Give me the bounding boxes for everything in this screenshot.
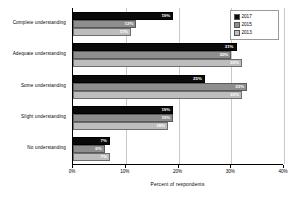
- bar: 11%: [73, 28, 131, 36]
- bar-value-label: 32%: [230, 92, 239, 96]
- bar: 7%: [73, 137, 110, 145]
- bar-value-label: 7%: [101, 155, 107, 159]
- bar: 32%: [73, 59, 242, 67]
- chart-legend: 201720152013: [230, 10, 279, 40]
- legend-swatch-icon: [234, 22, 240, 28]
- bar: 33%: [73, 83, 247, 91]
- bar-value-label: 19%: [161, 108, 170, 112]
- bar-value-label: 30%: [219, 53, 228, 57]
- x-axis-tick: [178, 165, 179, 168]
- legend-swatch-icon: [234, 14, 240, 20]
- bar-value-label: 18%: [156, 124, 165, 128]
- bar: 19%: [73, 114, 173, 122]
- bar-value-label: 19%: [161, 116, 170, 120]
- bar: 19%: [73, 12, 173, 20]
- legend-item: 2017: [234, 13, 276, 21]
- bar: 12%: [73, 20, 136, 28]
- x-axis-tick: [283, 165, 284, 168]
- bar-value-label: 33%: [235, 84, 244, 88]
- bar: 31%: [73, 43, 237, 51]
- category-label: Some understanding: [0, 84, 66, 89]
- x-axis-tick-label: 10%: [120, 169, 129, 174]
- category-label: Adequate understanding: [0, 52, 66, 57]
- category-label: Slight understanding: [0, 115, 66, 120]
- x-axis-title: Percent of respondents: [72, 182, 283, 187]
- category-label: Complete understanding: [0, 21, 66, 26]
- bar-value-label: 11%: [119, 29, 128, 33]
- bar: 7%: [73, 153, 110, 161]
- bar-chart: Complete understandingAdequate understan…: [0, 0, 299, 202]
- bar: 25%: [73, 75, 205, 83]
- bar-value-label: 12%: [125, 21, 134, 25]
- category-axis-labels: Complete understandingAdequate understan…: [0, 8, 69, 165]
- bar-value-label: 32%: [230, 61, 239, 65]
- legend-item: 2013: [234, 29, 276, 37]
- legend-item: 2015: [234, 21, 276, 29]
- bar: 19%: [73, 106, 173, 114]
- x-axis-tick-label: 40%: [278, 169, 287, 174]
- x-axis-tick-label: 0%: [69, 169, 76, 174]
- bar-value-label: 6%: [95, 147, 101, 151]
- x-axis-tick-label: 20%: [173, 169, 182, 174]
- x-axis-tick: [125, 165, 126, 168]
- bar-group: 19%19%18%: [73, 106, 283, 130]
- bar-value-label: 19%: [161, 13, 170, 17]
- legend-swatch-icon: [234, 30, 240, 36]
- legend-label: 2015: [242, 23, 252, 28]
- bar-value-label: 25%: [193, 76, 202, 80]
- bar-group: 31%30%32%: [73, 43, 283, 67]
- gridline: [284, 8, 285, 164]
- bar: 32%: [73, 91, 242, 99]
- legend-label: 2013: [242, 31, 252, 36]
- category-label: No understanding: [0, 146, 66, 151]
- x-axis-tick-label: 30%: [226, 169, 235, 174]
- bar-value-label: 31%: [225, 45, 234, 49]
- bar-group: 25%33%32%: [73, 75, 283, 99]
- bar-group: 7%6%7%: [73, 137, 283, 161]
- legend-label: 2017: [242, 15, 252, 20]
- x-axis-tick: [72, 165, 73, 168]
- bar: 6%: [73, 145, 105, 153]
- x-axis-tick: [230, 165, 231, 168]
- bar-value-label: 7%: [101, 139, 107, 143]
- bar: 18%: [73, 122, 168, 130]
- bar: 30%: [73, 51, 231, 59]
